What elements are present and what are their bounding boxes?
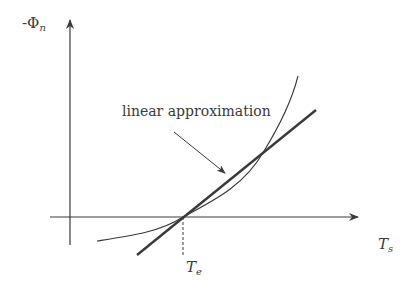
nonlinear-curve [97,76,298,241]
annotation-label: linear approximation [122,103,271,119]
y-axis-label-main: -Φ [22,14,39,32]
equilibrium-label: Te [186,258,202,277]
annotation-arrow [174,132,225,173]
linear-approximation-line [137,110,316,255]
x-axis-label-subscript: s [388,243,393,254]
x-axis-label-main: T [378,235,388,253]
diagram-canvas: -Φn linear approximation Ts Te [0,0,414,290]
y-axis-label-subscript: n [39,22,45,33]
diagram-svg [0,0,414,290]
y-axis-label: -Φn [22,14,46,33]
equilibrium-label-subscript: e [196,266,202,277]
equilibrium-label-main: T [186,258,196,276]
x-axis-label: Ts [378,235,393,254]
